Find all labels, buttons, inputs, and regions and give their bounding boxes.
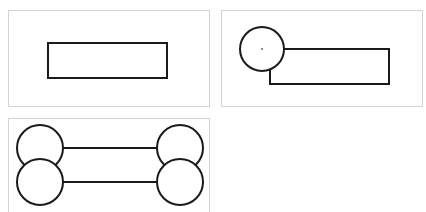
circle-bottom-right [157, 159, 203, 205]
rectangle-shape [48, 43, 167, 78]
diagram-canvas [0, 0, 426, 212]
rectangle-shape [270, 49, 389, 84]
circle-bottom-left [17, 159, 63, 205]
circle-center-dot [261, 48, 263, 50]
